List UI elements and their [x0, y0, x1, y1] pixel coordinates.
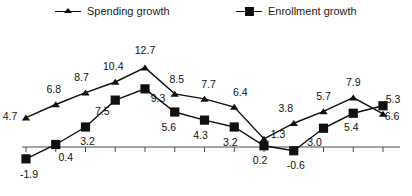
data-point-marker	[200, 116, 209, 125]
data-label: 5.7	[316, 91, 331, 102]
data-label: 0.4	[58, 151, 73, 162]
data-point-marker	[22, 114, 30, 120]
data-point-marker	[259, 141, 268, 150]
data-label: 7.7	[201, 79, 216, 90]
data-point-marker	[349, 94, 357, 100]
data-label: 1.3	[271, 129, 286, 140]
data-label: 5.6	[161, 122, 176, 133]
data-point-marker	[290, 120, 298, 126]
data-label: -1.9	[20, 169, 38, 180]
data-label: 8.5	[169, 74, 184, 85]
data-point-marker	[230, 122, 239, 131]
x-axis	[22, 147, 400, 152]
data-label: 9.3	[151, 93, 166, 104]
data-point-marker	[51, 140, 60, 149]
data-point-marker	[289, 146, 298, 155]
chart-container: Spending growth Enrollment growth 4.76.8…	[0, 0, 412, 196]
data-label: 5.3	[386, 94, 401, 105]
data-label: 3.0	[307, 137, 322, 148]
data-label: 12.7	[135, 44, 155, 55]
data-point-marker	[170, 107, 179, 116]
data-label: 7.9	[346, 76, 361, 87]
data-point-marker	[52, 101, 60, 107]
data-label: 3.2	[80, 136, 95, 147]
data-label: -0.6	[287, 160, 305, 171]
data-label: 6.6	[385, 111, 400, 122]
data-point-marker	[140, 84, 149, 93]
data-point-marker	[349, 109, 358, 118]
data-label: 6.4	[233, 87, 248, 98]
data-point-marker	[81, 122, 90, 131]
data-point-marker	[141, 64, 149, 70]
data-label: 6.8	[46, 83, 61, 94]
data-point-marker	[319, 108, 327, 114]
data-label: 3.2	[223, 137, 238, 148]
x-axis-tick-labels	[0, 189, 412, 196]
plot-svg	[0, 0, 412, 196]
data-label: 7.5	[95, 106, 110, 117]
data-point-marker	[111, 96, 120, 105]
plot-area	[0, 0, 412, 196]
data-label: 3.8	[278, 103, 293, 114]
data-label: 5.4	[344, 122, 359, 133]
data-point-marker	[81, 89, 89, 95]
data-point-marker	[21, 154, 30, 163]
data-label: 4.3	[193, 130, 208, 141]
data-point-marker	[111, 79, 119, 85]
data-label: 10.4	[103, 61, 123, 72]
data-point-marker	[319, 124, 328, 133]
data-label: 4.7	[3, 110, 18, 121]
data-label: 0.2	[253, 155, 268, 166]
data-label: 8.7	[74, 71, 89, 82]
